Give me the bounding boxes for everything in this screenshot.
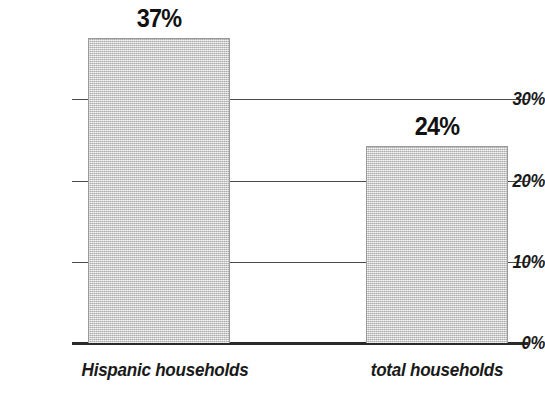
bar-total-households	[366, 146, 508, 343]
bar-value-label-hispanic-households: 37%	[95, 3, 223, 34]
bar-chart: 30% 20% 10% 0% 37% Hispanic households 2…	[0, 0, 545, 403]
plot-area: 30% 20% 10% 0% 37% Hispanic households 2…	[0, 0, 545, 403]
y-tick-label-30: 30%	[490, 88, 545, 110]
x-category-label-hispanic-households: Hispanic households	[71, 359, 260, 381]
x-category-label-total-households: total households	[343, 359, 532, 381]
bar-hispanic-households	[88, 38, 230, 343]
bar-value-label-total-households: 24%	[373, 111, 501, 142]
